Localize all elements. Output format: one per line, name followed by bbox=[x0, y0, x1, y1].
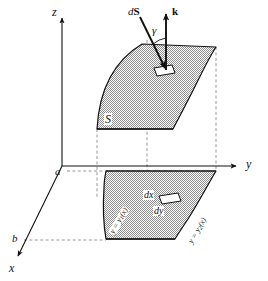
k-vector-label: k bbox=[172, 6, 178, 17]
figure-container: z y x a b S dS k γ y = y1(x) y = y2(x) d… bbox=[0, 0, 268, 281]
surface-S bbox=[97, 44, 216, 129]
x-mark-a-label: a bbox=[55, 166, 61, 177]
gamma-angle-arc bbox=[153, 38, 166, 44]
gamma-arc bbox=[153, 38, 166, 44]
gamma-angle-label: γ bbox=[152, 25, 156, 36]
surface-label-S: S bbox=[104, 113, 112, 125]
x-mark-b-label: b bbox=[12, 233, 18, 244]
dS-label-S-part: S bbox=[134, 5, 140, 17]
dx-label: dx bbox=[143, 190, 154, 200]
x-axis bbox=[18, 166, 62, 256]
figure-canvas bbox=[0, 0, 268, 281]
z-axis-label: z bbox=[52, 6, 57, 18]
surface-S-shape bbox=[97, 44, 216, 129]
dy-label: dy bbox=[153, 206, 164, 216]
y-axis-label: y bbox=[246, 158, 251, 170]
x-axis-label: x bbox=[9, 262, 14, 274]
dS-vector-label: dS bbox=[128, 6, 140, 17]
